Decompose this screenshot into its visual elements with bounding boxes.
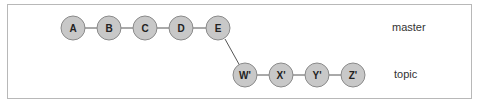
commit-node: W' bbox=[233, 63, 257, 87]
commit-label: Y' bbox=[312, 70, 321, 81]
commit-label: E bbox=[215, 23, 222, 34]
commit-label: D bbox=[177, 23, 184, 34]
commit-node: X' bbox=[269, 63, 293, 87]
commit-node: C bbox=[133, 16, 157, 40]
commit-graph: ABCDEW'X'Y'Z' bbox=[0, 0, 481, 107]
commit-nodes: ABCDEW'X'Y'Z' bbox=[61, 16, 365, 87]
commit-label: C bbox=[141, 23, 148, 34]
commit-node: A bbox=[61, 16, 85, 40]
branch-label-topic: topic bbox=[394, 68, 417, 80]
branch-label-master: master bbox=[392, 21, 426, 33]
commit-label: A bbox=[69, 23, 76, 34]
commit-node: Z' bbox=[341, 63, 365, 87]
commit-node: E bbox=[206, 16, 230, 40]
commit-node: Y' bbox=[305, 63, 329, 87]
commit-label: B bbox=[105, 23, 112, 34]
commit-node: D bbox=[169, 16, 193, 40]
commit-label: W' bbox=[239, 70, 251, 81]
commit-label: Z' bbox=[349, 70, 358, 81]
commit-label: X' bbox=[276, 70, 285, 81]
commit-node: B bbox=[97, 16, 121, 40]
